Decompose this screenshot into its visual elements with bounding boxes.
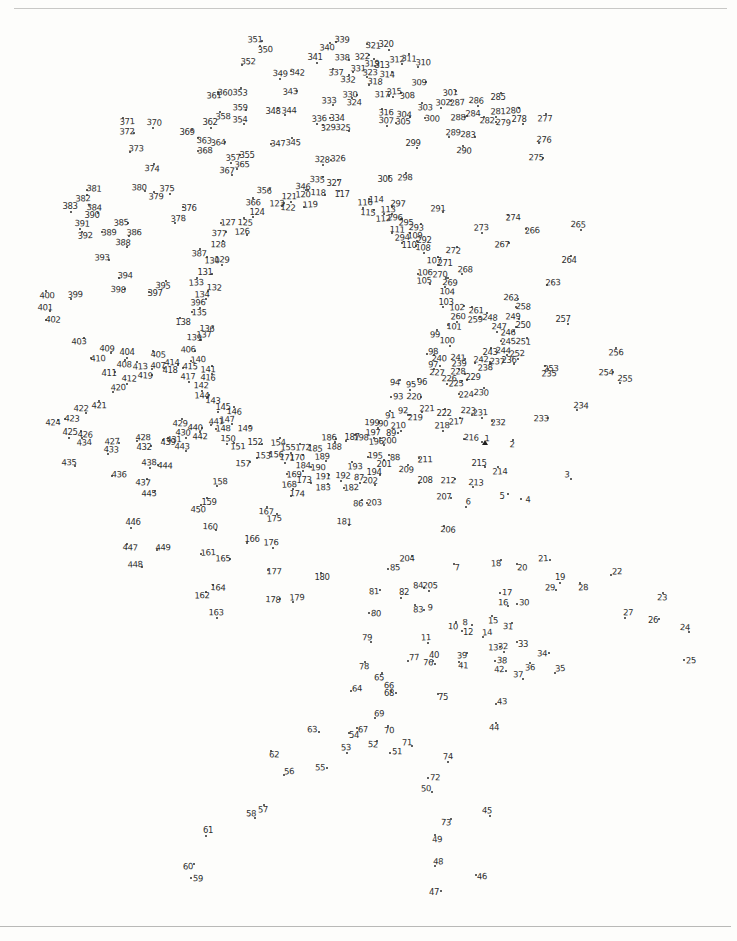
dot-point-264: [570, 255, 572, 257]
dot-number-29: 29: [545, 583, 555, 592]
dot-point-251: [526, 337, 528, 339]
dot-number-22: 22: [612, 567, 622, 576]
dot-point-306: [388, 175, 390, 177]
dot-number-142: 142: [193, 381, 208, 390]
dot-point-100: [449, 345, 451, 347]
dot-point-415: [182, 367, 184, 369]
dot-number-258: 258: [515, 302, 530, 311]
dot-point-202: [374, 484, 376, 486]
dot-point-78: [364, 661, 366, 663]
dot-number-443: 443: [174, 442, 189, 451]
dot-point-208: [418, 482, 420, 484]
dot-point-42: [505, 670, 507, 672]
dot-point-445: [154, 490, 156, 492]
dot-number-12: 12: [463, 628, 473, 637]
dot-point-300: [424, 117, 426, 119]
dot-number-176: 176: [263, 538, 278, 547]
dot-number-396: 396: [190, 298, 205, 307]
dot-point-284: [466, 115, 468, 117]
dot-number-42: 42: [494, 665, 504, 674]
dot-point-188: [334, 441, 336, 443]
dot-point-256: [615, 347, 617, 349]
dot-point-233: [547, 417, 549, 419]
dot-point-336: [316, 123, 318, 125]
dot-point-101: [447, 324, 449, 326]
dot-point-206: [443, 525, 445, 527]
dot-point-10: [455, 621, 457, 623]
dot-number-379: 379: [148, 192, 163, 201]
dot-number-5: 5: [499, 492, 504, 501]
dot-number-60: 60: [183, 862, 193, 871]
dot-point-151: [233, 442, 235, 444]
dot-point-316: [381, 108, 383, 110]
dot-number-366: 366: [245, 198, 260, 207]
dot-point-18: [500, 559, 502, 561]
dot-point-267: [508, 242, 510, 244]
dot-point-217: [459, 417, 461, 419]
dot-point-117: [338, 190, 340, 192]
dot-point-205: [428, 590, 430, 592]
dot-point-378: [174, 222, 176, 224]
dot-point-423: [64, 418, 66, 420]
dot-point-49: [434, 834, 436, 836]
dot-number-11: 11: [421, 633, 431, 642]
dot-point-338: [348, 59, 350, 61]
dot-point-435: [74, 465, 76, 467]
dot-number-10: 10: [448, 622, 458, 631]
dot-point-421: [98, 400, 100, 402]
dot-number-247: 247: [491, 322, 506, 331]
dot-point-203: [366, 502, 368, 504]
dot-number-7: 7: [454, 563, 459, 572]
dot-number-347: 347: [270, 139, 285, 148]
dot-point-405: [152, 350, 154, 352]
dot-point-330: [356, 94, 358, 96]
dot-point-87: [359, 482, 361, 484]
dot-point-381: [86, 189, 88, 191]
dot-point-160: [215, 529, 217, 531]
dot-point-72: [427, 777, 429, 779]
dot-number-285: 285: [490, 93, 505, 102]
dot-point-375: [169, 193, 171, 195]
dot-number-389: 389: [101, 228, 116, 237]
dot-point-357: [230, 162, 232, 164]
dot-point-247: [496, 331, 498, 333]
dot-point-385: [127, 222, 129, 224]
dot-number-324: 324: [346, 98, 361, 107]
dot-number-447: 447: [122, 543, 137, 552]
dot-point-285: [500, 92, 502, 94]
dot-point-139: [199, 339, 201, 341]
dot-point-367: [231, 174, 233, 176]
dot-point-175: [276, 513, 278, 515]
dot-number-85: 85: [390, 563, 400, 572]
dot-point-286: [477, 105, 479, 107]
dot-point-292: [416, 240, 418, 242]
dot-point-413: [136, 361, 138, 363]
dot-point-309: [425, 81, 427, 83]
dot-point-265: [580, 229, 582, 231]
dot-point-311: [408, 53, 410, 55]
dot-point-12: [461, 630, 463, 632]
dot-number-46: 46: [477, 872, 487, 881]
dot-number-45: 45: [482, 806, 492, 815]
dot-number-302: 302: [435, 98, 450, 107]
dot-number-277: 277: [537, 114, 552, 123]
dot-point-222: [444, 408, 446, 410]
dot-point-412: [126, 383, 128, 385]
scan-artifact-top-edge: [14, 8, 727, 9]
dot-number-17: 17: [502, 588, 512, 597]
dot-point-337: [332, 68, 334, 70]
dot-point-236: [513, 363, 515, 365]
dot-point-352: [241, 64, 243, 66]
dot-point-271: [437, 264, 439, 266]
dot-point-30: [516, 603, 518, 605]
dot-number-383: 383: [62, 202, 77, 211]
dot-point-442: [199, 431, 201, 433]
dot-point-394: [118, 277, 120, 279]
dot-number-245: 245: [500, 337, 515, 346]
dot-number-273: 273: [473, 223, 488, 232]
dot-number-75: 75: [438, 693, 448, 702]
dot-point-277: [545, 113, 547, 115]
dot-point-7: [453, 563, 455, 565]
dot-number-23: 23: [657, 593, 667, 602]
dot-number-271: 271: [437, 259, 452, 268]
